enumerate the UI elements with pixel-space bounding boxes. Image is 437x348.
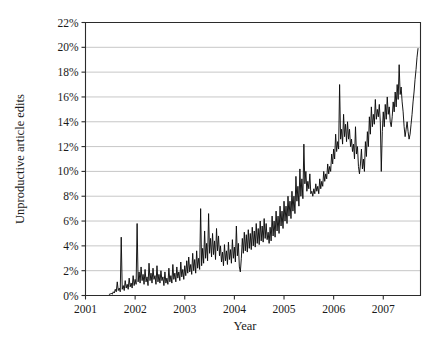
x-axis-label: Year — [233, 319, 257, 333]
x-tick-label: 2007 — [372, 303, 395, 315]
line-chart: 0%2%4%6%8%10%12%14%16%18%20%22% 20012002… — [0, 0, 437, 348]
y-tick-label: 0% — [63, 290, 79, 302]
x-tick-label: 2001 — [74, 303, 97, 315]
y-tick-label: 10% — [57, 165, 79, 177]
y-tick-label: 2% — [63, 265, 79, 277]
x-tick-label: 2004 — [223, 303, 246, 315]
y-tick-label: 6% — [63, 215, 79, 227]
x-tick-label: 2006 — [322, 303, 345, 315]
chart-container: 0%2%4%6%8%10%12%14%16%18%20%22% 20012002… — [0, 0, 437, 348]
y-tick-label: 14% — [57, 116, 79, 128]
y-tick-label: 4% — [63, 240, 79, 252]
x-tick-label: 2005 — [273, 303, 296, 315]
y-tick-label: 22% — [57, 17, 79, 29]
y-axis-label: Unproductive article edits — [13, 94, 27, 224]
x-tick-label: 2002 — [124, 303, 147, 315]
y-tick-label: 20% — [57, 41, 79, 53]
y-tick-label: 18% — [57, 66, 79, 78]
x-tick-label: 2003 — [173, 303, 196, 315]
y-tick-label: 12% — [57, 141, 79, 153]
y-tick-label: 8% — [63, 190, 79, 202]
y-tick-label: 16% — [57, 91, 79, 103]
